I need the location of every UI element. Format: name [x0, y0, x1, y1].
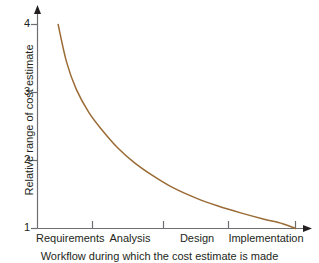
x-category-label-analysis: Analysis: [106, 233, 154, 244]
y-tick-label-1: 1: [24, 222, 30, 233]
chart-plot-area: [0, 0, 319, 263]
y-axis-title: Relative range of cost estimate: [23, 25, 35, 215]
x-category-label-requirements: Requirements: [36, 233, 94, 244]
x-axis-title: Workflow during which the cost estimate …: [0, 250, 319, 262]
x-category-label-implementation: Implementation: [225, 233, 307, 244]
x-axis: [38, 221, 313, 232]
y-axis-arrowhead: [34, 5, 41, 14]
x-axis-arrowhead: [303, 225, 312, 232]
cost-estimate-chart: 4 3 2 1 Requirements Analysis Design Imp…: [0, 0, 319, 263]
x-category-label-design: Design: [173, 233, 221, 244]
cost-estimate-curve: [58, 25, 295, 229]
